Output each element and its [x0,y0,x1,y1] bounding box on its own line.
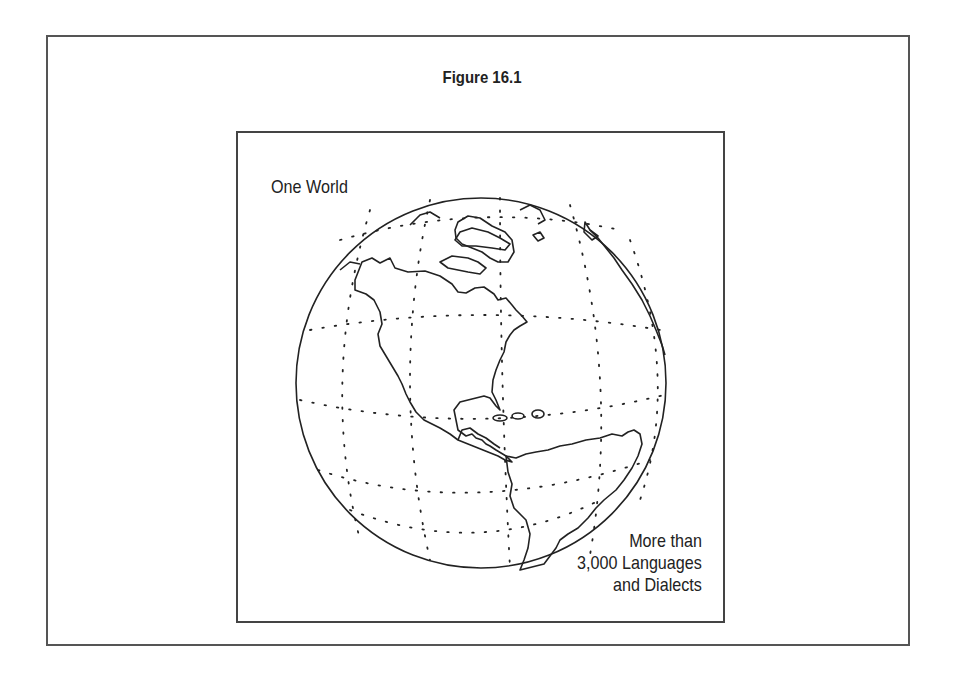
central-america [458,428,500,448]
caribbean-island [532,410,544,418]
caribbean-island [512,413,524,419]
greenland [455,216,514,262]
south-america [506,430,642,570]
globe-icon [0,0,964,678]
